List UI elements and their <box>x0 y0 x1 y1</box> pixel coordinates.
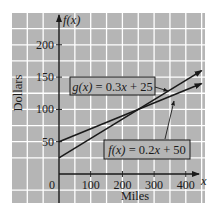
f-callout: f(x) = 0.2x + 50 <box>104 140 190 159</box>
x-tick-label: 400 <box>177 178 195 192</box>
x-axis-title: Miles <box>121 189 150 203</box>
y-axis-symbol: f(x) <box>63 13 80 27</box>
y-tick-label: 150 <box>36 70 54 84</box>
y-tick-label: 200 <box>36 38 54 52</box>
y-axis-title: Dollars <box>11 74 25 111</box>
x-tick-label: 100 <box>82 178 100 192</box>
origin-label: 0 <box>49 178 55 192</box>
f-callout-label: f(x) = 0.2x + 50 <box>108 143 186 157</box>
x-axis-symbol: x <box>200 174 207 188</box>
line-chart: 100200300400 50100150200 0 f(x) x Miles … <box>0 0 215 213</box>
y-tick-label: 100 <box>36 102 54 116</box>
g-callout-label: g(x) = 0.3x + 25 <box>72 80 152 94</box>
g-callout: g(x) = 0.3x + 25 <box>70 77 155 95</box>
y-tick-label: 50 <box>42 135 54 149</box>
